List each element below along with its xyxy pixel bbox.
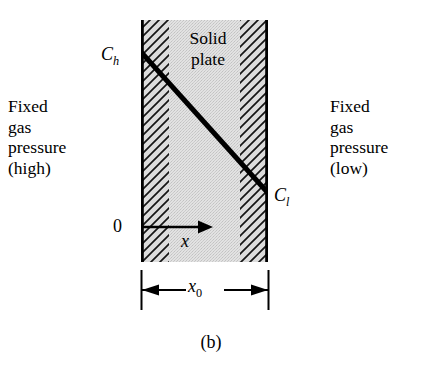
concentration-low-symbol: C — [274, 185, 286, 205]
right-gas-line-1: Fixed — [330, 96, 388, 117]
concentration-high-subscript: h — [113, 54, 119, 68]
solid-plate-title-line-2: plate — [168, 49, 248, 70]
left-gas-line-4: (high) — [8, 158, 66, 179]
left-gas-line-2: gas — [8, 117, 66, 138]
concentration-high-label: Ch — [101, 44, 119, 69]
right-gas-line-2: gas — [330, 117, 388, 138]
diffusion-diagram: Fixed gas pressure (high) Fixed gas pres… — [0, 0, 422, 370]
thickness-symbol: x — [188, 276, 196, 296]
right-gas-line-4: (low) — [330, 158, 388, 179]
dimension-arrowhead-right — [251, 285, 268, 296]
dimension-arrowhead-left — [142, 285, 159, 296]
thickness-label: x0 — [188, 276, 202, 301]
left-gas-pressure-label: Fixed gas pressure (high) — [8, 96, 66, 178]
concentration-low-label: Cl — [274, 185, 289, 210]
left-gas-line-3: pressure — [8, 137, 66, 158]
left-gas-line-1: Fixed — [8, 96, 66, 117]
concentration-high-symbol: C — [101, 44, 113, 64]
origin-label: 0 — [113, 216, 122, 237]
thickness-dimension-line — [128, 268, 282, 312]
x-axis-label: x — [181, 231, 189, 252]
concentration-low-subscript: l — [286, 195, 289, 209]
solid-plate-title-line-1: Solid — [168, 28, 248, 49]
right-gas-line-3: pressure — [330, 137, 388, 158]
thickness-subscript: 0 — [196, 286, 202, 300]
figure-caption: (b) — [0, 332, 422, 353]
solid-plate-title: Solid plate — [168, 28, 248, 69]
right-gas-pressure-label: Fixed gas pressure (low) — [330, 96, 388, 178]
